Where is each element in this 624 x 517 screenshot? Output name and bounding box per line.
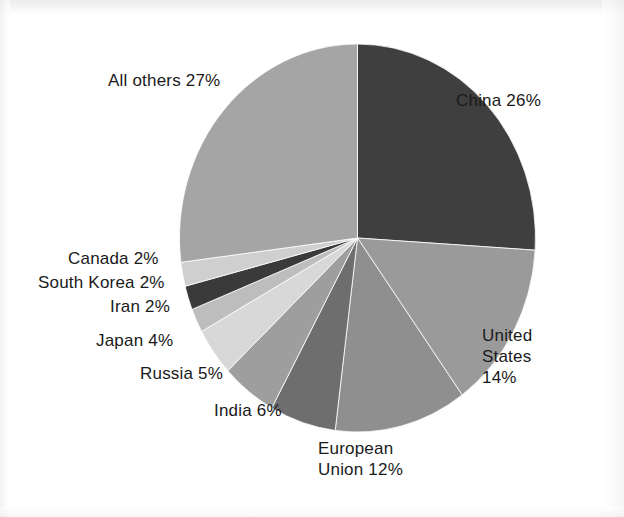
slice-label-russia: Russia 5% [140, 363, 223, 384]
slice-label-india: India 6% [214, 400, 282, 421]
pie-slice-china [358, 44, 536, 250]
slice-label-all-others: All others 27% [108, 70, 220, 91]
slice-label-canada: Canada 2% [68, 248, 159, 269]
pie-chart-figure: All others 27% China 26% United States 1… [0, 0, 624, 517]
slice-label-european-union: European Union 12% [318, 438, 403, 480]
slice-label-united-states: United States 14% [482, 325, 532, 388]
slice-label-south-korea: South Korea 2% [38, 272, 165, 293]
slice-label-iran: Iran 2% [110, 296, 170, 317]
slice-label-japan: Japan 4% [96, 330, 173, 351]
slice-label-china: China 26% [456, 90, 541, 111]
